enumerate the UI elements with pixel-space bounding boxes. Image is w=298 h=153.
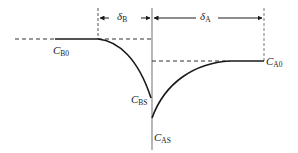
c-b0-sub: B0 xyxy=(60,49,69,58)
c-bs-sub: BS xyxy=(138,98,147,107)
label-delta-b: δB xyxy=(117,11,127,24)
delta-b-sub: B xyxy=(122,15,127,24)
b-profile-curve xyxy=(98,39,151,98)
label-c-b0: CB0 xyxy=(53,45,69,58)
label-c-as: CAS xyxy=(154,132,171,145)
label-c-a0: CA0 xyxy=(266,56,283,69)
label-delta-a: δA xyxy=(200,11,211,24)
c-a0-sub: A0 xyxy=(273,60,282,69)
label-c-bs: CBS xyxy=(131,94,148,107)
delta-a-sub: A xyxy=(205,15,210,24)
c-as-sub: AS xyxy=(161,136,171,145)
a-profile-curve xyxy=(152,61,264,118)
diagram-canvas xyxy=(0,0,298,153)
